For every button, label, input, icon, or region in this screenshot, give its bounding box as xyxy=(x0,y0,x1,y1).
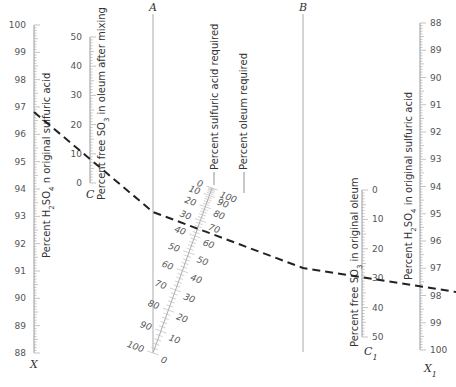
tick-label: 92 xyxy=(15,239,26,249)
tick-label: 89 xyxy=(15,321,27,331)
slant-right-label: 60 xyxy=(202,237,216,250)
slant-right-label: 20 xyxy=(175,312,189,325)
tick-label: 50 xyxy=(372,332,384,342)
slant-left-label: 70 xyxy=(154,278,168,291)
tick-label: 40 xyxy=(71,61,83,71)
tick-label: 30 xyxy=(71,90,83,100)
slant-right-label: 80 xyxy=(212,208,226,221)
tick-label: 100 xyxy=(430,345,447,355)
tick-label: 0 xyxy=(372,185,378,195)
c-axis: 01020304050 xyxy=(71,32,96,188)
tick-label: 20 xyxy=(372,244,384,254)
x1-axis-title: Percent H2SO4 in original sulfuric acid xyxy=(403,92,418,280)
tick-label: 50 xyxy=(71,32,83,42)
slant-right-label: 30 xyxy=(182,291,196,304)
b-line-letter: B xyxy=(298,1,307,14)
tick-label: 90 xyxy=(15,293,27,303)
tick-label: 99 xyxy=(15,47,27,57)
slant-right-label: 40 xyxy=(189,272,203,285)
tick-label: 0 xyxy=(76,178,82,188)
a-line-letter: A xyxy=(148,1,157,14)
tick-label: 100 xyxy=(9,20,26,30)
tick-label: 89 xyxy=(430,45,442,55)
slant-left-label: 20 xyxy=(183,195,197,208)
tick-label: 98 xyxy=(430,291,442,301)
tick-label: 98 xyxy=(15,75,27,85)
nomograph: 888990919293949596979899100 X Percent H2… xyxy=(0,0,456,387)
x1-axis: 888990919293949596979899100 xyxy=(420,18,447,355)
slant-left-label: 50 xyxy=(167,241,181,254)
tick-label: 20 xyxy=(71,120,83,130)
c1-axis: 01020304050 xyxy=(362,185,384,342)
slant-right-label: 50 xyxy=(196,254,210,267)
tick-label: 95 xyxy=(15,157,26,167)
x1-axis-letter: X1 xyxy=(423,362,437,379)
tick-label: 91 xyxy=(430,100,441,110)
slant-left-label: 80 xyxy=(146,298,160,311)
x-axis: 888990919293949596979899100 xyxy=(9,20,40,358)
slant-scale: 0102030405060708090100100908070605040302… xyxy=(126,178,239,366)
slant-left-label: 30 xyxy=(178,208,192,221)
tick-label: 10 xyxy=(71,149,83,159)
slant-left-label: 60 xyxy=(161,259,175,272)
x-axis-letter: X xyxy=(29,358,39,371)
c-axis-letter: C xyxy=(86,188,95,201)
slant-right-label: 10 xyxy=(168,333,182,346)
tick-label: 10 xyxy=(372,214,384,224)
tick-label: 91 xyxy=(15,266,26,276)
tick-label: 88 xyxy=(15,348,27,358)
x-axis-title: Percent H2SO4 n original sulfuric acid xyxy=(41,73,56,258)
tick-label: 95 xyxy=(430,209,441,219)
tick-label: 93 xyxy=(430,154,441,164)
tick-label: 99 xyxy=(430,318,442,328)
slant-left-label: 90 xyxy=(139,319,153,332)
tick-label: 90 xyxy=(430,73,442,83)
slant-right-title: Percent oleum required xyxy=(238,53,249,170)
tick-label: 96 xyxy=(430,236,442,246)
slant-left-label: 40 xyxy=(173,224,187,237)
tick-label: 97 xyxy=(15,102,26,112)
tick-label: 40 xyxy=(372,303,384,313)
c1-axis-letter: C1 xyxy=(364,345,378,362)
slant-left-label: 100 xyxy=(126,339,146,354)
tick-label: 94 xyxy=(15,184,27,194)
slant-right-label: 0 xyxy=(160,354,169,365)
tick-label: 93 xyxy=(15,211,26,221)
tick-label: 94 xyxy=(430,182,442,192)
tick-label: 96 xyxy=(15,129,27,139)
tick-label: 92 xyxy=(430,127,441,137)
slant-left-title: Percent sulfuric acid required xyxy=(209,24,220,170)
tick-label: 97 xyxy=(430,263,441,273)
tick-label: 30 xyxy=(372,273,384,283)
tick-label: 88 xyxy=(430,18,442,28)
